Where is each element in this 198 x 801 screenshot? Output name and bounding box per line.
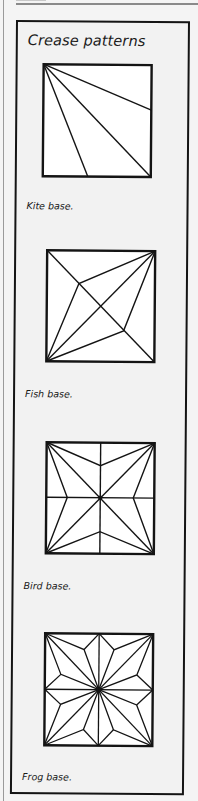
fish-base-diagram	[45, 249, 156, 363]
bird-base-caption: Bird base.	[24, 580, 72, 591]
panel-title: Crease patterns	[28, 32, 146, 49]
bird-base-diagram	[45, 441, 156, 555]
top-rule	[16, 3, 198, 5]
page-edge-rule	[3, 0, 4, 801]
fish-base-caption: Fish base.	[25, 388, 73, 399]
kite-base-diagram	[42, 63, 153, 178]
crease-patterns-panel: Crease patterns Kite base. Fish base.	[10, 20, 190, 795]
frog-base-caption: Frog base.	[22, 771, 72, 782]
kite-base-caption: Kite base.	[26, 200, 73, 211]
top-rule-stub	[16, 0, 46, 1]
frog-base-diagram	[43, 632, 154, 747]
